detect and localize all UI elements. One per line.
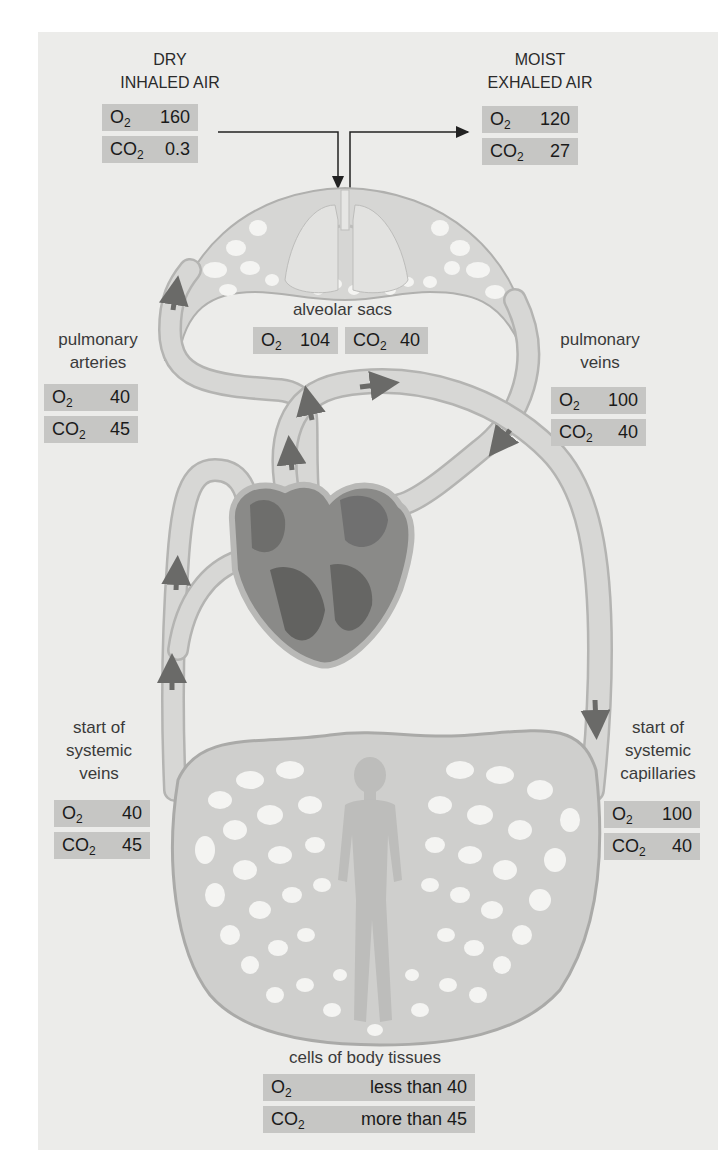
systemic-veins-label: start of systemic veins <box>44 716 154 785</box>
systemic-veins-o2-value: 40 <box>122 803 142 824</box>
exhaled-co2-value: 27 <box>550 141 570 162</box>
alveolar-co2-value: 40 <box>400 330 420 351</box>
sv-label-line3: veins <box>44 762 154 785</box>
exhaled-label-line1: MOIST <box>470 48 610 71</box>
body-tissues-o2-value: less than 40 <box>370 1077 467 1098</box>
co2-symbol: CO2 <box>353 330 387 351</box>
co2-symbol: CO2 <box>559 422 593 443</box>
systemic-capillaries-co2-box: CO2 40 <box>604 833 700 860</box>
systemic-capillaries-o2-value: 100 <box>662 804 692 825</box>
pulmonary-arteries-o2-value: 40 <box>110 387 130 408</box>
systemic-capillaries-o2-box: O2 100 <box>604 801 700 828</box>
o2-symbol: O2 <box>52 387 73 408</box>
o2-symbol: O2 <box>612 804 633 825</box>
alveolar-o2-value: 104 <box>300 330 330 351</box>
inhaled-co2-box: CO2 0.3 <box>102 136 198 163</box>
o2-symbol: O2 <box>271 1077 292 1098</box>
systemic-capillaries-co2-value: 40 <box>672 836 692 857</box>
pa-label-line1: pulmonary <box>38 328 158 351</box>
pulmonary-arteries-co2-box: CO2 45 <box>44 416 138 443</box>
exhaled-o2-box: O2 120 <box>482 106 578 133</box>
alveolar-sacs-label: alveolar sacs <box>260 298 425 321</box>
co2-symbol: CO2 <box>271 1109 305 1130</box>
inhaled-o2-box: O2 160 <box>102 104 198 131</box>
systemic-veins-co2-value: 45 <box>122 835 142 856</box>
o2-symbol: O2 <box>110 107 131 128</box>
pulmonary-veins-co2-box: CO2 40 <box>551 419 646 446</box>
exhaled-air-label: MOIST EXHALED AIR <box>470 48 610 94</box>
o2-symbol: O2 <box>261 330 282 351</box>
inhaled-co2-value: 0.3 <box>165 139 190 160</box>
air-flow-lines <box>218 132 468 190</box>
exhaled-o2-value: 120 <box>540 109 570 130</box>
pulmonary-veins-o2-box: O2 100 <box>551 387 646 414</box>
body-tissues-co2-value: more than 45 <box>361 1109 467 1130</box>
body-tissues-co2-box: CO2 more than 45 <box>263 1106 475 1133</box>
pa-label-line2: arteries <box>38 351 158 374</box>
inhaled-o2-value: 160 <box>160 107 190 128</box>
co2-symbol: CO2 <box>62 835 96 856</box>
o2-symbol: O2 <box>62 803 83 824</box>
co2-symbol: CO2 <box>110 139 144 160</box>
pv-label-line1: pulmonary <box>540 328 660 351</box>
pulmonary-arteries-co2-value: 45 <box>110 419 130 440</box>
o2-symbol: O2 <box>559 390 580 411</box>
sv-label-line1: start of <box>44 716 154 739</box>
systemic-capillary-bed <box>173 731 600 1045</box>
pulmonary-arteries-label: pulmonary arteries <box>38 328 158 374</box>
systemic-veins-co2-box: CO2 45 <box>54 832 150 859</box>
systemic-capillaries-label: start of systemic capillaries <box>598 716 718 785</box>
pv-label-line2: veins <box>540 351 660 374</box>
o2-symbol: O2 <box>490 109 511 130</box>
heart-icon <box>232 485 412 666</box>
inhaled-label-line2: INHALED AIR <box>100 71 240 94</box>
circulation-diagram-art <box>0 0 728 1163</box>
alveolar-co2-box: CO2 40 <box>345 327 428 354</box>
pulmonary-veins-o2-value: 100 <box>608 390 638 411</box>
exhaled-label-line2: EXHALED AIR <box>470 71 610 94</box>
pulmonary-arteries-o2-box: O2 40 <box>44 384 138 411</box>
sc-label-line1: start of <box>598 716 718 739</box>
inhaled-label-line1: DRY <box>100 48 240 71</box>
systemic-veins-o2-box: O2 40 <box>54 800 150 827</box>
co2-symbol: CO2 <box>52 419 86 440</box>
sc-label-line3: capillaries <box>598 762 718 785</box>
exhaled-co2-box: CO2 27 <box>482 138 578 165</box>
sv-label-line2: systemic <box>44 739 154 762</box>
body-tissues-label: cells of body tissues <box>255 1046 475 1069</box>
pulmonary-veins-co2-value: 40 <box>618 422 638 443</box>
pulmonary-veins-label: pulmonary veins <box>540 328 660 374</box>
co2-symbol: CO2 <box>490 141 524 162</box>
sc-label-line2: systemic <box>598 739 718 762</box>
inhaled-air-label: DRY INHALED AIR <box>100 48 240 94</box>
co2-symbol: CO2 <box>612 836 646 857</box>
alveolar-o2-box: O2 104 <box>253 327 338 354</box>
body-tissues-o2-box: O2 less than 40 <box>263 1074 475 1101</box>
